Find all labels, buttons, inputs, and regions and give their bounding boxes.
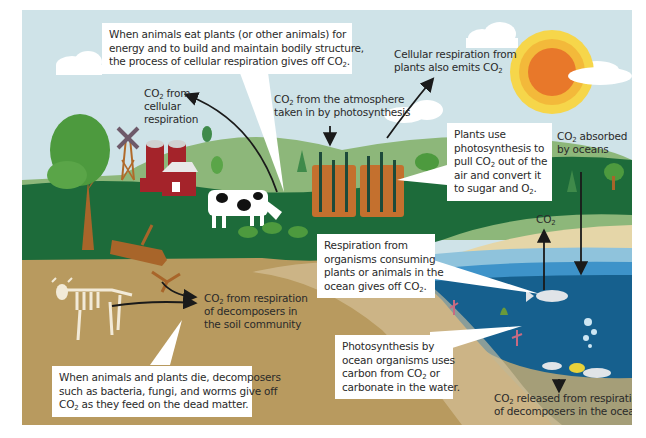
carbon-cycle-diagram: When animals eat plants (or other animal… [22, 10, 632, 425]
label-absorbed-by-oceans: CO2 absorbed by oceans [557, 130, 627, 156]
label-ocean-decomposers: CO2 released from respiration of decompo… [494, 392, 632, 418]
label-plant-respiration: Cellular respiration from plants also em… [394, 48, 517, 74]
cloud-icon [568, 67, 632, 85]
label-cellular-respiration: CO2 from cellular respiration [144, 87, 198, 126]
callout-decomposers-land: When animals and plants die, decomposers… [52, 366, 252, 417]
label-atmosphere-photosynthesis: CO2 from the atmosphere taken in by phot… [274, 93, 410, 119]
callout-ocean-respiration: Respiration from organisms consuming pla… [317, 234, 435, 298]
label-ocean-co2: CO2 [536, 213, 555, 226]
callout-animal-respiration: When animals eat plants (or other animal… [102, 23, 352, 74]
callout-plant-photosynthesis: Plants use photosynthesis to pull CO2 ou… [447, 123, 552, 201]
callout-ocean-photosynthesis: Photosynthesis by ocean organisms uses c… [335, 335, 453, 399]
label-soil-decomposers: CO2 from respiration of decomposers in t… [204, 292, 308, 331]
